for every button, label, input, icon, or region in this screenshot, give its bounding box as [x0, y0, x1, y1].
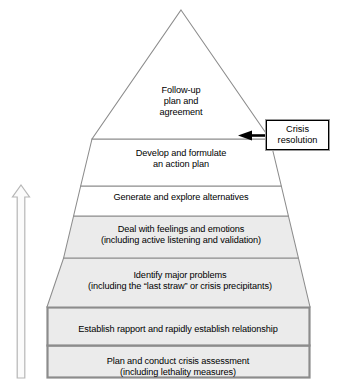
diagram-canvas: Follow-up plan and agreement Develop and… [0, 0, 340, 391]
upward-progress-arrow[interactable] [13, 185, 30, 378]
pyramid-tier-1-label: Follow-up plan and agreement [118, 85, 244, 118]
pyramid-tier-6-label: Establish rapport and rapidly establish … [50, 324, 306, 335]
pyramid-tier-5-label: Identify major problems (including the “… [44, 270, 316, 292]
pyramid-tier-7-label: Plan and conduct crisis assessment (incl… [50, 356, 306, 378]
pyramid-tier-3-label: Generate and explore alternatives [72, 192, 290, 203]
crisis-resolution-callout-label: Crisis resolution [278, 124, 318, 146]
pyramid-tier-1-shape[interactable] [92, 10, 270, 139]
pyramid-tier-2-label: Develop and formulate an action plan [96, 148, 266, 170]
pyramid-tier-4-label: Deal with feelings and emotions (includi… [56, 224, 306, 246]
crisis-resolution-callout[interactable]: Crisis resolution [266, 120, 329, 150]
